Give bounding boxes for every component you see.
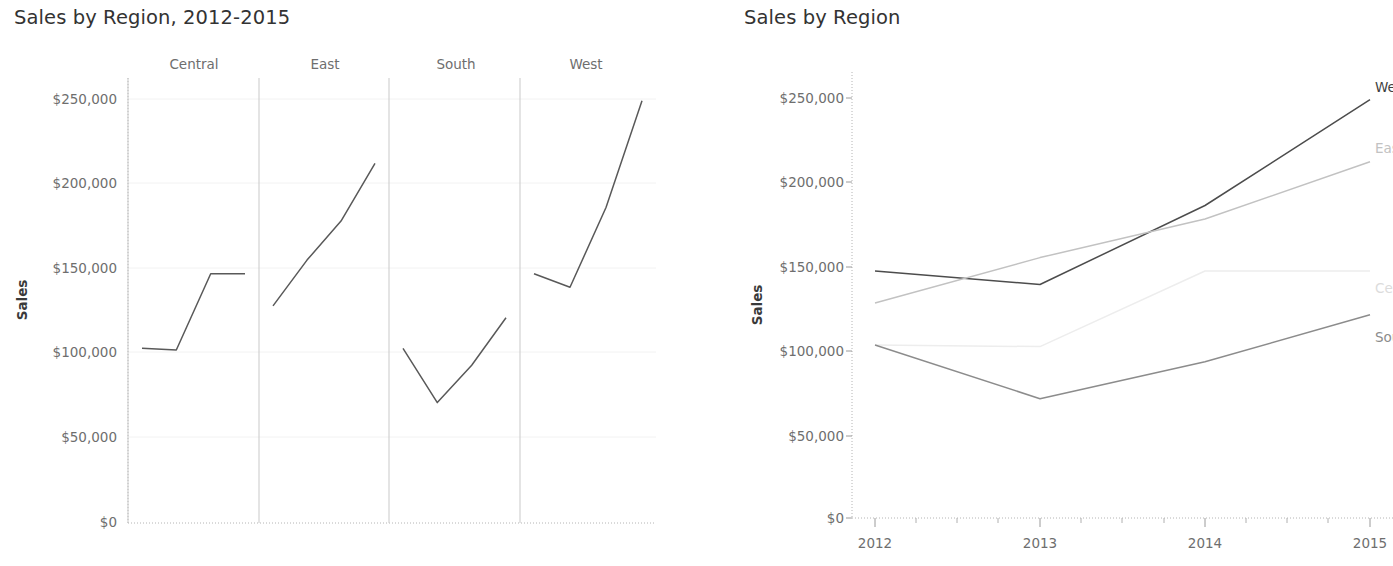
right-y-tick-200000: $200,000 [780, 174, 844, 190]
right-x-tick-2012: 2012 [858, 535, 892, 551]
right-y-tickmarks [846, 98, 852, 518]
left-series-line-south [403, 318, 506, 403]
right-x-tickmarks [875, 518, 1370, 527]
right-series-label-east: East [1375, 140, 1393, 156]
left-y-tick-150000: $150,000 [53, 260, 117, 276]
right-chart-canvas: Sales $250,000 $200,000 $150,000 $100,00… [730, 0, 1393, 566]
right-x-tick-2015: 2015 [1353, 535, 1387, 551]
right-series-line-south [875, 315, 1370, 399]
right-series-label-south: South [1375, 329, 1393, 345]
left-y-tick-100000: $100,000 [53, 344, 117, 360]
right-series-label-west: West [1375, 79, 1393, 95]
right-y-tick-100000: $100,000 [780, 343, 844, 359]
right-y-tick-50000: $50,000 [788, 428, 844, 444]
right-x-tick-2013: 2013 [1023, 535, 1057, 551]
right-series-line-east [875, 162, 1370, 303]
left-panel-header-south: South [436, 56, 475, 72]
left-panel-header-east: East [310, 56, 339, 72]
right-y-axis-title: Sales [749, 285, 765, 326]
right-series-label-central: Central [1375, 280, 1393, 296]
right-y-tick-250000: $250,000 [780, 90, 844, 106]
left-y-axis-title: Sales [14, 280, 30, 321]
left-y-tick-200000: $200,000 [53, 175, 117, 191]
right-chart-panel: Sales by Region Sales $250,000 $200,000 … [730, 0, 1393, 566]
left-y-tick-50000: $50,000 [61, 429, 117, 445]
right-x-tick-2014: 2014 [1188, 535, 1222, 551]
left-y-tick-250000: $250,000 [53, 91, 117, 107]
left-series-line-east [273, 163, 375, 306]
left-chart-series-group [142, 101, 642, 403]
right-chart-series-group [875, 100, 1370, 399]
right-y-tick-0: $0 [827, 510, 844, 526]
left-series-line-central [142, 274, 245, 350]
left-series-line-west [534, 101, 642, 288]
left-panel-header-central: Central [169, 56, 218, 72]
left-chart-panel: Sales by Region, 2012-2015 Sales $250,00… [0, 0, 730, 566]
left-y-tick-0: $0 [100, 514, 117, 530]
right-y-tick-150000: $150,000 [780, 259, 844, 275]
left-panel-header-west: West [569, 56, 602, 72]
left-chart-canvas: Sales $250,000 $200,000 $150,000 $100,00… [0, 0, 730, 566]
right-series-line-west [875, 100, 1370, 285]
